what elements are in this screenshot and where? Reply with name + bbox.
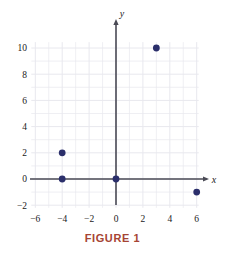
y-tick-label: −2 — [17, 201, 27, 211]
data-point — [113, 176, 120, 183]
axis-lines — [30, 19, 209, 205]
x-tick-label: 6 — [194, 214, 199, 224]
x-tick-label: −6 — [30, 214, 40, 224]
x-tick-label: 0 — [114, 214, 119, 224]
y-tick-label: 6 — [22, 96, 27, 106]
y-tick-label: 0 — [22, 174, 27, 184]
data-point — [153, 45, 160, 52]
figure-caption: FIGURE 1 — [0, 232, 225, 244]
x-tick-label: 2 — [141, 214, 146, 224]
x-axis-label: x — [211, 174, 217, 185]
y-axis-arrowhead — [113, 19, 118, 25]
y-tick-label: 4 — [22, 122, 27, 132]
data-point — [193, 189, 200, 196]
x-axis-tick-labels: −6−4−20246 — [30, 214, 199, 224]
y-tick-label: 8 — [22, 70, 27, 80]
scatter-plot: −6−4−20246 −20246810 x y — [0, 0, 225, 226]
x-tick-label: −4 — [57, 214, 67, 224]
y-axis-label: y — [119, 8, 125, 19]
y-tick-label: 2 — [22, 148, 27, 158]
figure-container: −6−4−20246 −20246810 x y FIGURE 1 — [0, 0, 225, 262]
plot-svg: −6−4−20246 −20246810 x y — [0, 0, 225, 226]
x-tick-label: 4 — [167, 214, 172, 224]
x-tick-label: −2 — [84, 214, 94, 224]
data-point — [59, 176, 66, 183]
x-axis-arrowhead — [203, 176, 209, 181]
y-axis-tick-labels: −20246810 — [17, 43, 27, 210]
data-point — [59, 149, 66, 156]
grid-lines — [31, 42, 198, 208]
y-tick-label: 10 — [18, 43, 28, 53]
